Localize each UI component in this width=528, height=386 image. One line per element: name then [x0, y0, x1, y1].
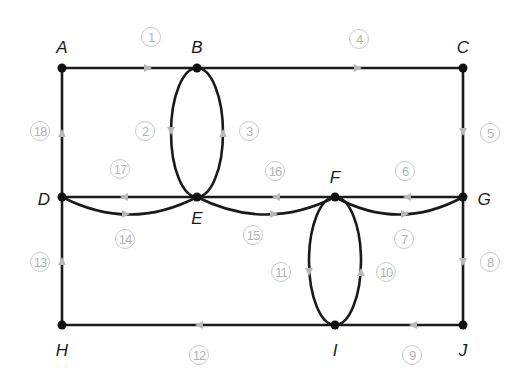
- node-label-H: H: [56, 342, 68, 359]
- edge-label-9: 9: [402, 345, 422, 365]
- arrow-up-icon: [58, 257, 66, 265]
- arrow-left-icon: [120, 193, 128, 201]
- edge-10-11-FI-loop: [309, 197, 361, 325]
- edge-label-18: 18: [30, 121, 50, 141]
- arrow-right-icon: [144, 64, 152, 72]
- edge-label-5: 5: [480, 123, 500, 143]
- edge-label-13: 13: [30, 252, 50, 272]
- vertex-A: [58, 64, 67, 73]
- edge-label-1: 1: [141, 27, 161, 47]
- node-label-E: E: [191, 210, 202, 227]
- arrow-down-icon: [305, 268, 313, 276]
- edge-label-4: 4: [349, 29, 369, 49]
- arrow-left-icon: [272, 193, 280, 201]
- arrow-right-icon: [270, 210, 278, 218]
- edge-label-15: 15: [243, 225, 263, 245]
- edge-15-EF-arc: [197, 197, 335, 215]
- edge-label-10: 10: [376, 262, 396, 282]
- edge-label-12: 12: [189, 345, 209, 365]
- node-label-F: F: [330, 169, 340, 186]
- node-label-J: J: [459, 342, 468, 359]
- edge-label-16: 16: [265, 161, 285, 181]
- edge-14-DE-arc: [62, 197, 197, 215]
- edge-2-3-BE-loop: [171, 68, 223, 197]
- graph-diagram: [0, 0, 528, 386]
- node-label-D: D: [38, 191, 50, 208]
- arrow-down-icon: [459, 128, 467, 136]
- edge-label-8: 8: [480, 252, 500, 272]
- node-label-B: B: [191, 39, 202, 56]
- arrow-up-icon: [58, 129, 66, 137]
- node-label-C: C: [457, 39, 469, 56]
- arrow-down-icon: [459, 258, 467, 266]
- vertex-J: [459, 321, 468, 330]
- arrow-down-icon: [167, 127, 175, 135]
- arrow-left-icon: [409, 321, 417, 329]
- arrow-up-icon: [357, 268, 365, 276]
- vertex-D: [58, 193, 67, 202]
- edge-label-11: 11: [271, 262, 291, 282]
- node-label-A: A: [56, 39, 67, 56]
- vertex-F: [331, 193, 340, 202]
- arrow-right-icon: [122, 210, 130, 218]
- edge-label-14: 14: [115, 229, 135, 249]
- arrow-left-icon: [403, 193, 411, 201]
- node-label-G: G: [477, 191, 490, 208]
- vertex-C: [459, 64, 468, 73]
- arrow-right-icon: [354, 64, 362, 72]
- arrow-right-icon: [401, 210, 409, 218]
- vertex-H: [58, 321, 67, 330]
- edge-label-2: 2: [135, 121, 155, 141]
- edge-label-3: 3: [239, 121, 259, 141]
- edge-7-FG-arc: [335, 197, 463, 215]
- arrow-left-icon: [195, 321, 203, 329]
- vertex-E: [193, 193, 202, 202]
- vertex-B: [193, 64, 202, 73]
- arrow-up-icon: [219, 129, 227, 137]
- edge-label-7: 7: [394, 229, 414, 249]
- node-label-I: I: [333, 342, 338, 359]
- edge-label-17: 17: [110, 159, 130, 179]
- edge-label-6: 6: [395, 161, 415, 181]
- vertex-G: [459, 193, 468, 202]
- vertex-I: [331, 321, 340, 330]
